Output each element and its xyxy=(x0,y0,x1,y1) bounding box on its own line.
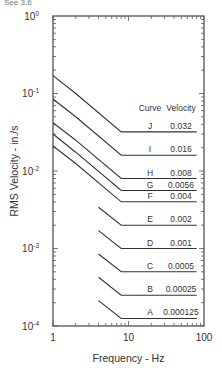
curve-h-velocity: 0.008 xyxy=(170,168,192,178)
y-tick-label: 100 xyxy=(24,10,39,22)
y-tick-exponent: -1 xyxy=(33,87,39,94)
y-tick-exponent: -4 xyxy=(33,320,39,327)
y-tick-label: 10-4 xyxy=(22,320,39,332)
x-axis-title: Frequency - Hz xyxy=(93,352,165,364)
curve-b-velocity: 0.00025 xyxy=(166,284,197,294)
y-tick-label: 10-1 xyxy=(22,87,39,99)
x-tick-label: 100 xyxy=(196,332,213,343)
curve-f-name: F xyxy=(147,191,152,201)
curve-c-velocity: 0.0005 xyxy=(168,261,194,271)
curve-d-name: D xyxy=(147,238,153,248)
curve-g-velocity: 0.0056 xyxy=(168,180,194,190)
curve-i-velocity: 0.016 xyxy=(170,144,192,154)
curve-a-name: A xyxy=(147,307,153,317)
vibration-criteria-chart: See 3.6 11010010010-110-210-310-4J0.032I… xyxy=(0,0,222,372)
curve-g-name: G xyxy=(147,180,154,190)
curve-e-velocity: 0.002 xyxy=(170,214,192,224)
x-tick-label: 10 xyxy=(123,332,135,343)
y-tick-exponent: 0 xyxy=(35,10,39,17)
y-tick-exponent: -2 xyxy=(33,165,39,172)
top-fragment-text: See 3.6 xyxy=(4,0,32,7)
y-tick-exponent: -3 xyxy=(33,242,39,249)
curve-i-name: I xyxy=(149,144,151,154)
curve-header: Curve xyxy=(139,103,162,113)
curve-a-velocity: 0.000125 xyxy=(163,307,199,317)
curve-e-name: E xyxy=(147,214,153,224)
velocity-header: Velocity xyxy=(166,103,196,113)
curve-h-name: H xyxy=(147,168,153,178)
x-tick-label: 1 xyxy=(50,332,56,343)
y-tick-label: 10-3 xyxy=(22,242,39,254)
curve-j-velocity: 0.032 xyxy=(170,121,192,131)
curve-f-velocity: 0.004 xyxy=(170,191,192,201)
curve-j-name: J xyxy=(148,121,152,131)
curve-b-name: B xyxy=(147,284,153,294)
curve-c-name: C xyxy=(147,261,153,271)
curve-d-velocity: 0.001 xyxy=(170,238,192,248)
y-tick-label: 10-2 xyxy=(22,165,39,177)
y-axis-title: RMS Velocity - in./s xyxy=(8,125,20,216)
